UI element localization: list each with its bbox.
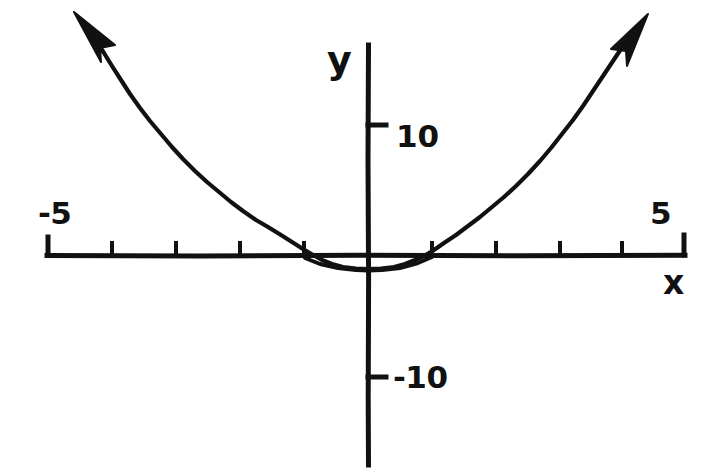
x-axis-label: x [663, 266, 684, 299]
y-axis-line [368, 45, 369, 465]
graph-figure: y x -5 5 10 -10 [0, 0, 720, 474]
graph-canvas [0, 0, 720, 474]
arrow-up-left-icon [74, 12, 115, 62]
x-tick-label-5: 5 [650, 198, 672, 229]
x-tick-label--5: -5 [38, 198, 71, 229]
parabola-curve [98, 40, 628, 269]
y-tick-label-10: 10 [396, 121, 439, 152]
y-tick-label--10: -10 [393, 362, 448, 393]
y-axis-label: y [327, 41, 352, 79]
